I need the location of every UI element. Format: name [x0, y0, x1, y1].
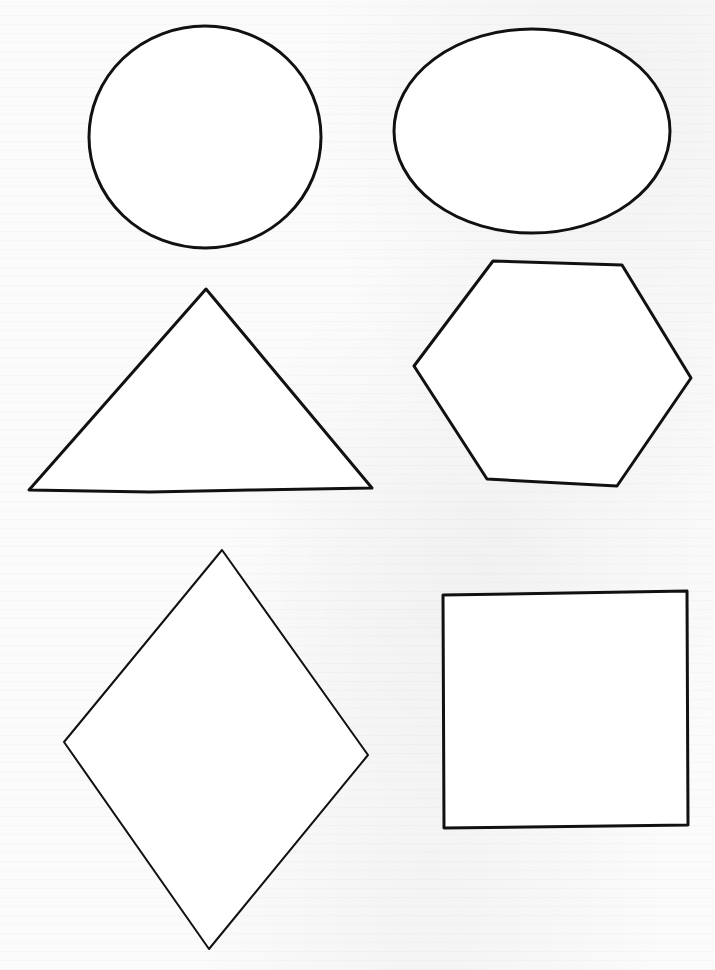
oval-shape	[394, 29, 670, 233]
worksheet-page: Circle Oval Triangle Hexagon Diamond Squ…	[0, 0, 715, 970]
shapes-canvas	[0, 0, 715, 970]
diamond-shape	[64, 550, 368, 949]
square-shape	[443, 591, 688, 828]
circle-shape	[89, 26, 321, 248]
hexagon-shape	[414, 261, 691, 486]
triangle-shape	[29, 289, 372, 492]
